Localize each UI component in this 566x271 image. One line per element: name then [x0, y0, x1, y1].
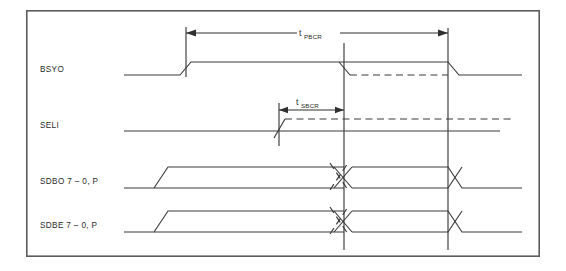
- bsyo-solid-trace: [124, 62, 522, 75]
- timing-marker-t-sbcr: t SBCR: [279, 97, 344, 113]
- t-pbcr-arrow-right-icon: [438, 30, 448, 37]
- sdbo-window1-top: [124, 167, 344, 188]
- signal-label-seli: SELI: [40, 121, 59, 130]
- signal-label-bsyo: BSYO: [40, 65, 64, 74]
- t-pbcr-arrow-left-icon: [186, 30, 196, 37]
- timing-marker-t-pbcr: t PBCR: [186, 28, 448, 40]
- sdbe-window2-top: [352, 211, 522, 232]
- t-sbcr-arrow-right-icon: [335, 107, 344, 113]
- sdbe-window2-bottom: [352, 211, 462, 232]
- timing-diagram-canvas: BSYO SELI SDBO 7 – 0, P SDBE 7 – 0, P t …: [0, 0, 566, 271]
- t-pbcr-subscript: PBCR: [304, 33, 322, 40]
- sdbo-window2-top: [352, 167, 522, 188]
- waveform-seli: [124, 119, 512, 138]
- t-sbcr-symbol: t: [296, 97, 299, 107]
- sdbe-window1-top: [124, 211, 344, 232]
- signal-label-sdbo: SDBO 7 – 0, P: [40, 177, 98, 186]
- t-sbcr-subscript: SBCR: [301, 102, 319, 109]
- waveform-sdbo: [124, 163, 522, 190]
- figure-border: [27, 11, 539, 256]
- t-pbcr-symbol: t: [299, 28, 302, 38]
- t-sbcr-arrow-left-icon: [279, 107, 288, 113]
- signal-label-sdbe: SDBE 7 – 0, P: [40, 221, 98, 230]
- timing-diagram-figure: BSYO SELI SDBO 7 – 0, P SDBE 7 – 0, P t …: [0, 0, 566, 271]
- sdbo-window2-bottom: [352, 167, 462, 188]
- waveform-sdbe: [124, 207, 522, 234]
- waveform-bsyo: [124, 62, 522, 75]
